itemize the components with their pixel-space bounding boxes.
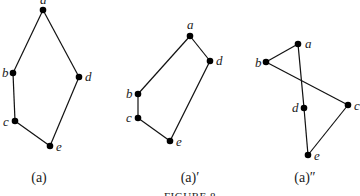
vertex-label-a: a <box>305 36 312 51</box>
vertex-e <box>167 138 174 145</box>
edge-b-c <box>266 62 348 105</box>
hasse-diagrams: abcde(a)abcde(a)′abcde(a)″ <box>2 0 360 186</box>
edge-a-b <box>138 36 190 94</box>
vertex-d <box>207 58 214 65</box>
vertex-c <box>135 115 142 122</box>
vertex-label-c: c <box>3 114 9 129</box>
vertex-label-e: e <box>314 148 320 163</box>
vertex-b <box>135 91 142 98</box>
edge-a-d <box>43 10 79 77</box>
vertex-d <box>76 74 83 81</box>
edge-a-b <box>13 10 43 73</box>
vertex-label-b: b <box>126 86 133 101</box>
edge-c-e <box>138 118 170 141</box>
vertex-a <box>187 33 194 40</box>
vertex-c <box>12 118 19 125</box>
vertex-c <box>345 102 352 109</box>
diagram-2: abcde(a)′ <box>126 17 223 186</box>
diagram-caption: (a)″ <box>294 170 316 186</box>
vertex-label-e: e <box>176 134 182 149</box>
edge-d-e <box>304 108 308 155</box>
vertex-b <box>263 59 270 66</box>
vertex-b <box>10 70 17 77</box>
edge-d-e <box>170 61 210 141</box>
vertex-label-e: e <box>56 139 62 154</box>
edge-d-e <box>50 77 79 146</box>
diagram-3: abcde(a)″ <box>255 36 360 186</box>
vertex-a <box>40 7 47 14</box>
figure-canvas: abcde(a)abcde(a)′abcde(a)″ FIGURE 8 <box>0 0 360 196</box>
vertex-label-b: b <box>255 55 262 70</box>
vertex-label-b: b <box>2 65 9 80</box>
vertex-e <box>305 152 312 159</box>
vertex-label-a: a <box>40 0 47 7</box>
diagram-1: abcde(a) <box>2 0 92 186</box>
vertex-label-d: d <box>292 100 299 115</box>
edge-a-d <box>298 44 304 108</box>
vertex-label-a: a <box>187 17 194 32</box>
vertex-a <box>295 41 302 48</box>
vertex-label-d: d <box>85 69 92 84</box>
vertex-e <box>47 143 54 150</box>
vertex-label-d: d <box>216 53 223 68</box>
edge-c-e <box>15 121 50 146</box>
diagram-caption: (a) <box>31 170 47 186</box>
edge-a-d <box>190 36 210 61</box>
edge-a-b <box>266 44 298 62</box>
vertex-label-c: c <box>126 110 132 125</box>
vertex-d <box>301 105 308 112</box>
figure-caption: FIGURE 8 <box>164 190 216 196</box>
vertex-label-c: c <box>354 98 360 113</box>
edge-b-c <box>13 73 15 121</box>
diagram-caption: (a)′ <box>181 170 200 186</box>
